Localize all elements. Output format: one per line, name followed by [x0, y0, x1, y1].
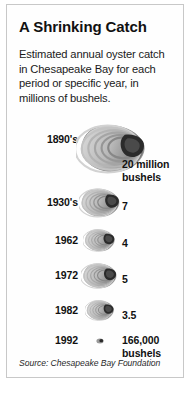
row-value-label: 166,000 bushels [122, 334, 188, 360]
oyster-shell-icon [85, 299, 115, 322]
row-year-label: 1972 [10, 269, 78, 281]
row-value-label: 20 million bushels [122, 158, 188, 184]
row-year-label: 1982 [10, 304, 78, 316]
row-value-label: 3.5 [122, 309, 188, 322]
data-rows: 1890's20 million bushels1930's7196241972… [0, 0, 192, 399]
row-year-label: 1930's [10, 196, 78, 208]
source-credit: Source: Chesapeake Bay Foundation [19, 358, 175, 368]
oyster-shell-icon [79, 187, 121, 219]
infographic-container: A Shrinking Catch Estimated annual oyste… [0, 0, 192, 399]
row-year-label: 1962 [10, 234, 78, 246]
oyster-shell-icon [81, 262, 118, 290]
oyster-shell-icon [96, 338, 104, 344]
row-year-label: 1992 [10, 334, 78, 346]
row-value-label: 5 [122, 273, 188, 286]
row-year-label: 1890's [10, 133, 78, 145]
row-value-label: 7 [122, 200, 188, 213]
row-value-label: 4 [122, 237, 188, 250]
oyster-shell-icon [83, 228, 116, 253]
